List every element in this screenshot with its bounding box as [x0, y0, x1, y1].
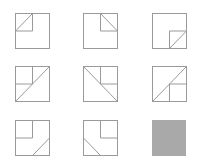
matrix-cell-r2c2 — [83, 66, 118, 102]
shape-square-quadrant-diagonal-icon — [83, 13, 118, 49]
matrix-cell-r1c2 — [83, 13, 118, 49]
matrix-cell-r2c3 — [152, 66, 187, 102]
shape-square-quadrant-diagonal-icon — [83, 66, 118, 102]
shape-square-quadrant-diagonal-icon — [15, 120, 50, 156]
missing-answer-placeholder[interactable] — [152, 120, 186, 156]
matrix-cell-r1c1 — [15, 13, 50, 49]
matrix-cell-r3c2 — [83, 120, 118, 156]
shape-square-quadrant-diagonal-icon — [152, 13, 187, 49]
matrix-cell-r3c1 — [15, 120, 50, 156]
matrix-cell-r1c3 — [152, 13, 187, 49]
shape-square-quadrant-diagonal-icon — [15, 66, 50, 102]
shape-square-quadrant-diagonal-icon — [15, 13, 50, 49]
matrix-cell-r2c1 — [15, 66, 50, 102]
shape-square-quadrant-diagonal-icon — [152, 66, 187, 102]
shape-square-quadrant-diagonal-icon — [83, 120, 118, 156]
